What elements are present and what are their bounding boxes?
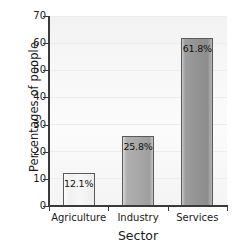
x-tick-mark — [227, 206, 228, 211]
bar-industry: 25.8% — [122, 136, 154, 206]
y-tick-mark — [43, 16, 48, 17]
y-tick-mark — [43, 125, 48, 126]
bar-value-label: 12.1% — [64, 178, 94, 189]
gridline — [49, 16, 227, 17]
x-tick-mark — [108, 206, 109, 211]
bar-chart: Percentages of people 12.1% 25.8% 61.8% … — [0, 0, 241, 251]
x-axis-title: Sector — [49, 228, 227, 243]
x-tick-mark — [168, 206, 169, 211]
plot-area: 12.1% 25.8% 61.8% — [49, 16, 227, 206]
y-tick-mark — [43, 152, 48, 153]
y-tick-mark — [43, 206, 48, 207]
bar-value-label: 25.8% — [123, 141, 153, 152]
y-axis-line — [48, 16, 50, 206]
y-tick-mark — [43, 179, 48, 180]
x-axis-line — [48, 205, 228, 207]
x-tick-label: Services — [157, 212, 237, 223]
y-tick-mark — [43, 43, 48, 44]
x-tick-mark — [49, 206, 50, 211]
bar-value-label: 61.8% — [182, 43, 212, 54]
y-tick-mark — [43, 97, 48, 98]
y-tick-mark — [43, 70, 48, 71]
bar-agriculture: 12.1% — [63, 173, 95, 206]
bar-services: 61.8% — [181, 38, 213, 206]
